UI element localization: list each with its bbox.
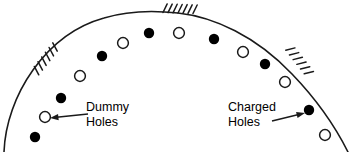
arrow-head <box>50 114 59 120</box>
arrow-head <box>296 112 305 118</box>
dummy-hole-marker <box>75 71 86 82</box>
arrow-shaft <box>272 115 299 121</box>
hatch-tick <box>293 57 302 59</box>
hatch-tick <box>297 62 306 64</box>
hatch-tick <box>42 57 46 65</box>
hatch-tick <box>38 62 42 70</box>
dummy-hole-marker <box>320 130 331 141</box>
charged-hole-marker <box>209 34 219 44</box>
dummy-hole-marker <box>238 47 249 58</box>
hatch-tick <box>183 5 187 14</box>
hatch-left <box>34 43 57 75</box>
diagram-canvas: Dummy Holes Charged Holes <box>0 0 354 152</box>
charged-hole-marker <box>260 59 270 69</box>
hatch-tick <box>173 4 177 13</box>
hatch-tick <box>168 4 172 13</box>
charged-holes-label-line1: Charged <box>228 100 276 114</box>
arrow-shaft <box>56 114 88 117</box>
charged-hole-marker <box>97 51 107 61</box>
dummy-hole-marker <box>280 77 291 88</box>
dummy-leader-arrow <box>50 114 88 120</box>
hatching-marks <box>34 4 313 75</box>
hatch-tick <box>34 66 38 74</box>
charged-hole-marker <box>144 28 154 38</box>
dummy-holes-label-line2: Holes <box>86 115 118 129</box>
dummy-holes-label-line1: Dummy <box>86 100 130 114</box>
hatch-tick <box>178 4 182 13</box>
charged-leader-arrow <box>272 112 305 121</box>
charged-hole-marker <box>30 132 40 142</box>
dummy-hole-marker <box>40 112 51 123</box>
dummy-hole-marker <box>118 38 129 49</box>
hatch-tick <box>289 53 298 55</box>
hatch-tick <box>45 52 49 60</box>
annotation-labels: Dummy Holes Charged Holes <box>86 100 276 129</box>
physics-diagram: Dummy Holes Charged Holes <box>0 0 354 152</box>
hatch-tick <box>286 48 295 50</box>
hatch-tick <box>301 67 310 69</box>
hatch-right <box>286 48 314 74</box>
hole-markers <box>30 28 331 143</box>
hatch-top <box>163 4 197 14</box>
charged-hole-marker <box>56 93 66 103</box>
hatch-tick <box>188 5 192 14</box>
charged-holes-label-line2: Holes <box>228 115 260 129</box>
dummy-hole-marker <box>174 28 185 39</box>
hatch-tick <box>193 5 197 14</box>
charged-hole-marker <box>304 105 314 115</box>
hatch-tick <box>304 72 313 74</box>
